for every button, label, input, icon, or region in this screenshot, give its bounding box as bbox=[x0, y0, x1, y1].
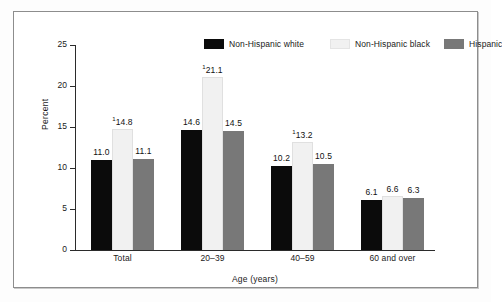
bar-group-3: 6.16.66.3 bbox=[361, 45, 424, 250]
legend-entry-hispanic: Hispanic bbox=[444, 39, 502, 49]
bar-value-label: 113.2 bbox=[292, 130, 312, 140]
bar-0-2[interactable]: 11.1 bbox=[133, 159, 154, 250]
x-tick-label-0: Total bbox=[113, 253, 131, 263]
footnote-marker: 1 bbox=[292, 129, 295, 135]
bar-value-label: 11.1 bbox=[135, 146, 151, 156]
bar-value-label: 14.5 bbox=[225, 118, 242, 128]
bar-value-label: 6.3 bbox=[407, 185, 419, 195]
bar-2-2[interactable]: 10.5 bbox=[313, 164, 334, 250]
bar-0-1[interactable]: 114.8 bbox=[112, 129, 133, 250]
y-tick-label: 15 bbox=[47, 121, 67, 131]
bar-value-label: 114.8 bbox=[112, 117, 132, 127]
bar-3-0[interactable]: 6.1 bbox=[361, 200, 382, 250]
x-axis-line bbox=[75, 250, 435, 251]
y-tick-label: 20 bbox=[47, 80, 67, 90]
y-tick-mark bbox=[70, 45, 75, 46]
footnote-marker: 1 bbox=[202, 64, 205, 70]
x-tick-label-3: 60 and over bbox=[370, 253, 416, 263]
bar-0-0[interactable]: 11.0 bbox=[91, 160, 112, 250]
y-tick-label: 10 bbox=[47, 162, 67, 172]
bar-1-0[interactable]: 14.6 bbox=[181, 130, 202, 250]
bar-2-0[interactable]: 10.2 bbox=[271, 166, 292, 250]
bar-value-label: 11.0 bbox=[93, 147, 109, 157]
y-tick-mark bbox=[70, 250, 75, 251]
y-tick-mark bbox=[70, 168, 75, 169]
chart-frame: Non-Hispanic white Non-Hispanic black Hi… bbox=[13, 11, 478, 288]
bar-value-label: 121.1 bbox=[202, 65, 222, 75]
bar-value-label: 6.1 bbox=[365, 187, 377, 197]
bar-value-label: 10.5 bbox=[315, 151, 332, 161]
bar-3-1[interactable]: 6.6 bbox=[382, 196, 403, 250]
bar-value-label: 14.6 bbox=[183, 117, 200, 127]
bar-1-1[interactable]: 121.1 bbox=[202, 77, 223, 250]
x-tick-label-2: 40–59 bbox=[290, 253, 314, 263]
y-tick-label: 25 bbox=[47, 39, 67, 49]
bar-group-0: 11.0114.811.1 bbox=[91, 45, 154, 250]
bar-group-2: 10.2113.210.5 bbox=[271, 45, 334, 250]
bar-3-2[interactable]: 6.3 bbox=[403, 198, 424, 250]
x-axis-title: Age (years) bbox=[75, 274, 435, 284]
y-tick-mark bbox=[70, 86, 75, 87]
bar-value-label: 10.2 bbox=[273, 153, 290, 163]
y-axis-line bbox=[75, 45, 76, 250]
x-tick-label-1: 20–39 bbox=[200, 253, 224, 263]
bar-value-label: 6.6 bbox=[386, 184, 398, 194]
bar-group-1: 14.6121.114.5 bbox=[181, 45, 244, 250]
footnote-marker: 1 bbox=[112, 116, 115, 122]
bar-1-2[interactable]: 14.5 bbox=[223, 131, 244, 250]
plot-area: 0510152025 11.0114.811.114.6121.114.510.… bbox=[75, 45, 435, 250]
y-tick-label: 5 bbox=[47, 203, 67, 213]
legend-label-hispanic: Hispanic bbox=[469, 39, 502, 49]
y-tick-mark bbox=[70, 209, 75, 210]
legend-swatch-hispanic bbox=[444, 39, 464, 49]
y-tick-label: 0 bbox=[47, 244, 67, 254]
y-tick-mark bbox=[70, 127, 75, 128]
bar-2-1[interactable]: 113.2 bbox=[292, 142, 313, 250]
